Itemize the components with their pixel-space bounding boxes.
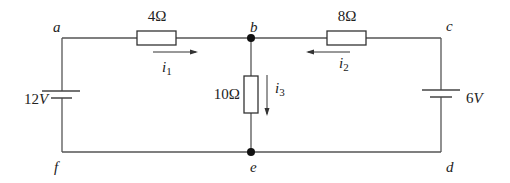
junction-e (247, 148, 255, 156)
resistor-10-ohm (244, 76, 258, 113)
node-label-f: f (54, 159, 60, 175)
node-label-d: d (446, 159, 454, 175)
arrow-i2-icon (306, 50, 350, 55)
node-label-a: a (53, 19, 61, 35)
junction-b (247, 34, 255, 42)
resistor-8-ohm (327, 31, 366, 45)
circuit-diagram: a b c d e f 4Ω 8Ω 10Ω 12V 6V i1 i2 i3 (0, 0, 510, 183)
resistor-label-4-ohm: 4Ω (148, 8, 167, 24)
arrow-i3-icon (265, 75, 270, 116)
arrow-i1-icon (153, 50, 198, 55)
node-label-c: c (446, 18, 453, 34)
current-label-i2: i2 (339, 55, 349, 73)
resistor-4-ohm (137, 31, 176, 45)
battery-6v (422, 90, 460, 97)
resistor-label-8-ohm: 8Ω (338, 8, 357, 24)
source-label-12v: 12V (24, 91, 50, 107)
resistor-label-10-ohm: 10Ω (214, 86, 240, 102)
node-label-e: e (250, 159, 257, 175)
source-label-6v: 6V (466, 90, 485, 106)
current-label-i3: i3 (275, 80, 285, 98)
current-label-i1: i1 (162, 59, 172, 77)
node-label-b: b (250, 19, 258, 35)
